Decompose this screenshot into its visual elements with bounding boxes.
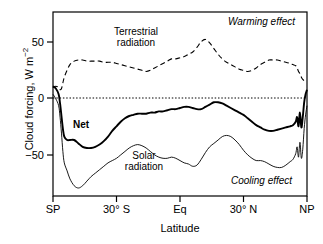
terrestrial-radiation-label: Terrestrial radiation — [94, 26, 178, 48]
x-tick-label-eq: Eq — [165, 203, 195, 215]
x-tick-label-sp: SP — [38, 203, 68, 215]
solar-radiation-label-line1: Solar — [132, 150, 155, 161]
y-axis-title-exponent: −2 — [21, 48, 30, 57]
terrestrial-radiation-label-line2: radiation — [117, 37, 155, 48]
x-tick-label-30s: 30° S — [93, 203, 140, 215]
cooling-effect-label: Cooling effect — [231, 175, 292, 186]
terrestrial-radiation-label-line1: Terrestrial — [114, 26, 158, 37]
net-label: Net — [73, 119, 89, 130]
x-tick-label-30n: 30° N — [220, 203, 267, 215]
solar-radiation-label-line2: radiation — [125, 161, 163, 172]
x-tick-label-np: NP — [292, 203, 322, 215]
x-axis-title: Latitude — [53, 222, 307, 234]
cloud-forcing-chart-figure: 50 0 −50 Cloud forcing, W m−2 SP 30° S E… — [0, 0, 323, 244]
y-axis-title-text: Cloud forcing, W m — [23, 57, 35, 151]
plot-frame — [53, 12, 307, 196]
y-axis-title: Cloud forcing, W m−2 — [23, 24, 35, 174]
warming-effect-label: Warming effect — [228, 16, 295, 27]
solar-radiation-label: Solar radiation — [114, 150, 174, 172]
